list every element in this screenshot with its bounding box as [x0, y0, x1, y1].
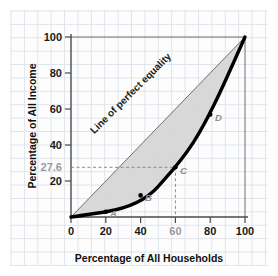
- x-tick-label-80: 80: [200, 226, 220, 237]
- data-point-b: [138, 193, 143, 198]
- x-tick-label-100: 100: [233, 226, 257, 237]
- x-tick-label-40: 40: [131, 226, 151, 237]
- data-point-label-d: D: [215, 112, 222, 123]
- y-axis-title: Percentage of All Income: [26, 56, 38, 196]
- y-tick-label-40: 40: [36, 140, 62, 151]
- data-point-label-c: C: [180, 165, 187, 176]
- x-tick-label-0: 0: [61, 226, 81, 237]
- data-point-label-a: A: [110, 208, 117, 219]
- data-point-d: [208, 112, 213, 117]
- y-tick-label-100: 100: [36, 32, 62, 43]
- x-tick-label-20: 20: [96, 226, 116, 237]
- x-axis-title: Percentage of All Households: [49, 252, 249, 264]
- lorenz-curve-figure: 100 80 60 40 20 27.6 0 20 40 60 80 100 P…: [0, 0, 278, 276]
- x-highlight-label-60: 60: [165, 226, 185, 237]
- data-point-a: [104, 209, 109, 214]
- x-axis-ticks: [71, 217, 245, 223]
- y-axis-ticks: [65, 37, 71, 181]
- y-tick-label-80: 80: [36, 68, 62, 79]
- y-tick-label-60: 60: [36, 104, 62, 115]
- y-tick-label-20: 20: [36, 176, 62, 187]
- data-point-label-b: B: [145, 192, 152, 203]
- data-point-c: [173, 165, 178, 170]
